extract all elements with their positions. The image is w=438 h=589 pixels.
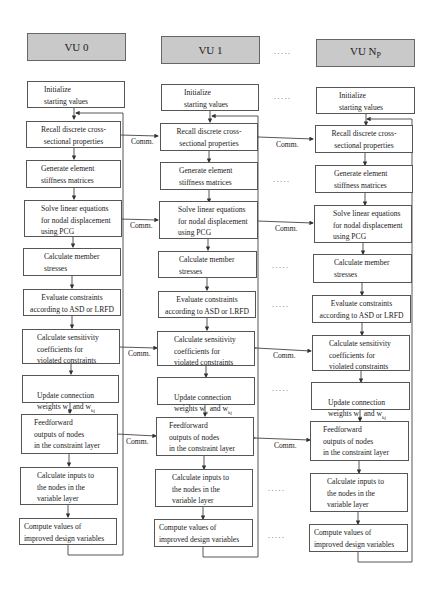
- vu1-compute: Compute values of improved design variab…: [154, 519, 253, 547]
- vunp-sensitivity: Calculate sensitivity coefficients for v…: [312, 335, 410, 371]
- comm-label: Comm.: [273, 351, 296, 360]
- header-vu-1: VU 1: [161, 36, 260, 64]
- comm-label: Comm.: [276, 140, 299, 149]
- ellipsis: .....: [274, 47, 292, 56]
- comm-label: Comm.: [126, 437, 149, 446]
- vu1-update: Update connectionweights wji and wkj: [157, 377, 255, 405]
- vunp-compute: Compute values of improved design variab…: [309, 524, 408, 552]
- vu0-inputs: Calculate inputs to the nodes in the var…: [20, 467, 118, 505]
- vunp-evaluate: Evaluate constraints according to ASD or…: [312, 295, 411, 323]
- vunp-initialize: Initialize starting values: [316, 87, 415, 114]
- vunp-recall: Recall discrete cross- sectional propert…: [315, 125, 413, 153]
- vunp-stresses: Calculate member stresses: [313, 254, 412, 283]
- vu1-evaluate: Evaluate constraints according to ASD or…: [158, 291, 256, 318]
- vu1-inputs: Calculate inputs to the nodes in the var…: [155, 469, 253, 507]
- vu1-recall: Recall discrete cross- sectional propert…: [160, 123, 258, 151]
- ellipsis: .....: [268, 531, 286, 540]
- vu1-generate: Generate element stiffness matrices: [160, 162, 258, 190]
- vu0-update: Update connectionweights wji and wkj: [22, 375, 119, 403]
- header-vu-np: VU NP: [316, 39, 415, 67]
- vu0-recall: Recall discrete cross- sectional propert…: [26, 121, 121, 148]
- vunp-update: Update connectionweights wji and wkj: [311, 382, 410, 410]
- ellipsis: .....: [273, 175, 291, 184]
- vu0-compute: Compute values of improved design variab…: [19, 518, 117, 545]
- ellipsis: .....: [274, 92, 292, 101]
- vu1-stresses: Calculate member stresses: [158, 251, 257, 278]
- comm-label: Comm.: [274, 441, 297, 450]
- header-label: VU NP: [350, 45, 381, 60]
- ellipsis: .....: [268, 484, 286, 493]
- comm-label: Comm.: [128, 349, 151, 358]
- vu0-generate: Generate element stiffness matrices: [26, 160, 121, 188]
- vu1-initialize: Initialize starting values: [161, 84, 259, 111]
- ellipsis: .....: [272, 300, 290, 309]
- vunp-inputs: Calculate inputs to the nodes in the var…: [310, 473, 408, 512]
- vu0-solve: Solve linear equations for nodal displac…: [24, 200, 122, 237]
- vu1-feedforward: Feedforward outputs of nodes in the cons…: [156, 417, 254, 456]
- vu1-solve: Solve linear equations for nodal displac…: [159, 201, 258, 239]
- comm-label: Comm.: [130, 221, 153, 230]
- comm-label: Comm.: [275, 224, 298, 233]
- ellipsis: .....: [272, 384, 290, 393]
- header-vu-0: VU 0: [27, 33, 126, 61]
- comm-label: Comm.: [131, 137, 154, 146]
- vu0-sensitivity: Calculate sensitivity coefficients for v…: [22, 329, 120, 364]
- vunp-feedforward: Feedforward outputs of nodes in the cons…: [310, 421, 409, 461]
- vunp-solve: Solve linear equations for nodal displac…: [314, 205, 412, 243]
- vu0-feedforward: Feedforward outputs of nodes in the cons…: [21, 414, 118, 454]
- header-label: VU 0: [64, 41, 88, 53]
- vunp-generate: Generate element stiffness matrices: [315, 165, 413, 193]
- vu0-initialize: Initialize starting values: [27, 81, 125, 108]
- vu1-sensitivity: Calculate sensitivity coefficients for v…: [157, 331, 255, 366]
- header-label: VU 1: [198, 44, 222, 56]
- ellipsis: .....: [272, 261, 290, 270]
- vu0-evaluate: Evaluate constraints according to ASD or…: [23, 289, 121, 316]
- vu0-stresses: Calculate member stresses: [23, 248, 121, 276]
